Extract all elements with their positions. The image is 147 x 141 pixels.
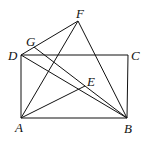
geometry-diagram: A B C D E F G bbox=[0, 0, 147, 141]
segment-BC bbox=[127, 55, 128, 118]
label-A: A bbox=[15, 121, 23, 134]
label-G: G bbox=[26, 35, 35, 48]
label-B: B bbox=[124, 122, 132, 135]
label-E: E bbox=[87, 75, 95, 88]
label-D: D bbox=[8, 49, 17, 62]
label-F: F bbox=[76, 7, 84, 20]
label-C: C bbox=[131, 49, 140, 62]
segment-EB bbox=[85, 86, 127, 118]
